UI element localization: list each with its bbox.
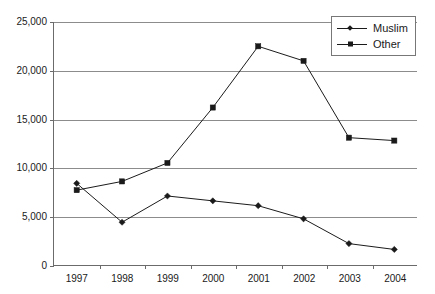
data-point-other-2004 [392,138,397,143]
x-axis-label-1998: 1998 [99,274,145,284]
x-axis-label-1997: 1997 [54,274,100,284]
series-other [74,44,397,193]
plot-area: 19971998199920002001200220032004 MuslimO… [53,22,417,266]
data-point-other-2003 [346,135,351,140]
y-axis-label: 25,000 [0,17,47,27]
y-tick-mark-0 [50,266,54,267]
data-point-muslim-2003 [346,241,352,247]
x-tick-mark [145,265,146,269]
x-axis-label-2002: 2002 [281,274,327,284]
y-axis-label: 20,000 [0,66,47,76]
legend-label: Muslim [373,23,408,34]
data-series-layer [54,22,417,265]
data-point-other-1997 [74,188,79,193]
data-point-muslim-1999 [164,193,170,199]
data-point-other-1998 [119,179,124,184]
legend-label: Other [373,39,401,50]
legend-diamond-icon [337,22,367,34]
x-tick-mark [191,265,192,269]
line-chart: 19971998199920002001200220032004 MuslimO… [0,0,435,294]
x-axis-label-2000: 2000 [190,274,236,284]
series-line-muslim [77,183,395,249]
legend-item-muslim[interactable]: Muslim [337,20,408,36]
data-point-other-2000 [210,105,215,110]
x-axis-label-2001: 2001 [236,274,282,284]
series-line-other [77,46,395,190]
legend-square-icon [337,38,367,50]
x-tick-mark [327,265,328,269]
data-point-muslim-2004 [391,246,397,252]
data-point-muslim-2002 [300,216,306,222]
data-point-other-2002 [301,58,306,63]
x-axis-label-2004: 2004 [372,274,418,284]
y-axis-label: 15,000 [0,115,47,125]
y-axis-label: 5,000 [0,212,47,222]
chart-legend: MuslimOther [331,16,416,56]
series-muslim [74,180,398,252]
x-axis-label-1999: 1999 [145,274,191,284]
data-point-muslim-2001 [255,203,261,209]
x-tick-mark [100,265,101,269]
legend-item-other[interactable]: Other [337,36,408,52]
data-point-muslim-2000 [210,198,216,204]
data-point-other-1999 [165,160,170,165]
x-tick-mark [282,265,283,269]
y-axis-label: 0 [0,261,47,271]
x-tick-mark [373,265,374,269]
x-tick-mark [236,265,237,269]
x-axis-label-2003: 2003 [327,274,373,284]
data-point-other-2001 [256,44,261,49]
y-axis-label: 10,000 [0,163,47,173]
